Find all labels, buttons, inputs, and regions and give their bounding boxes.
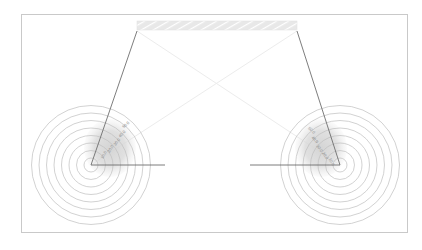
- left-cluster: 10.0 20.0 30.0 40.0 50.0: [32, 106, 166, 225]
- hatched-bar-rect: [137, 21, 297, 30]
- right-cluster: 10.0 20.0 30.0 40.0 50.0: [250, 106, 400, 225]
- left-angle-label: 50.0: [121, 120, 131, 130]
- radiation-pattern-diagram: 10.0 20.0 30.0 40.0 50.0 10.0: [0, 0, 422, 250]
- hatched-bar: [137, 21, 297, 30]
- diagram-canvas: 10.0 20.0 30.0 40.0 50.0 10.0: [0, 0, 422, 250]
